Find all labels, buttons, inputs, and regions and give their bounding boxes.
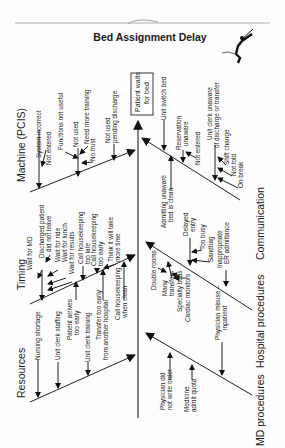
svg-text:pending discharge: pending discharge [111, 90, 119, 143]
svg-text:Not used: Not used [104, 117, 111, 143]
resources-causes: Nursing shortage Unit clerk staffing Pat… [34, 262, 128, 397]
svg-text:System incorrect: System incorrect [35, 110, 43, 158]
svg-text:ER admittance: ER admittance [223, 222, 230, 264]
svg-text:did not leave: did not leave [45, 215, 52, 252]
svg-text:Functions not useful: Functions not useful [57, 93, 64, 150]
svg-text:Double rooms: Double rooms [150, 250, 157, 290]
category-hospital: Hospital procedures [254, 275, 266, 368]
svg-text:of discharge or transfer: of discharge or transfer [213, 81, 221, 148]
svg-text:Unit clerk training: Unit clerk training [84, 312, 92, 362]
svg-text:Not told: Not told [230, 154, 237, 176]
svg-text:No trust: No trust [89, 138, 96, 161]
svg-text:Patient arrives: Patient arrives [66, 299, 73, 340]
svg-text:Think it will take: Think it will take [107, 216, 114, 262]
effect-label-line2: for bed [143, 82, 150, 104]
svg-text:Unit clerk unaware: Unit clerk unaware [206, 87, 213, 140]
svg-text:Medicine: Medicine [183, 386, 190, 412]
category-md: MD procedures [254, 374, 266, 446]
svg-text:Unit clerk staffing: Unit clerk staffing [54, 311, 62, 360]
diagram-page: Bed Assignment Delay Patient waits for b… [0, 0, 285, 448]
svg-text:Nursing shortage: Nursing shortage [34, 311, 42, 360]
svg-text:too early: too early [97, 241, 105, 266]
svg-text:Wait for results: Wait for results [68, 232, 75, 274]
svg-text:admit quota: admit quota [190, 378, 198, 412]
svg-text:Not entered: Not entered [45, 131, 52, 165]
svg-text:Sandbag: Sandbag [207, 236, 215, 262]
svg-text:Wait for lunch: Wait for lunch [61, 223, 68, 262]
bone-resources [30, 355, 135, 402]
category-resources: Resources [15, 348, 27, 398]
category-machine: Machine (PCIS) [15, 108, 27, 182]
svg-text:entry: entry [189, 217, 197, 232]
svg-text:unaware: unaware [182, 121, 189, 146]
svg-text:more time: more time [114, 233, 121, 262]
category-communication: Communication [254, 187, 266, 260]
communication-causes: Unit switch bed Reservation unaware Not … [160, 76, 244, 228]
bone-hospital [146, 242, 252, 310]
svg-text:Specialty beds: Specialty beds [176, 270, 184, 312]
diagram-title: Bed Assignment Delay [93, 31, 207, 43]
svg-text:Not entered: Not entered [194, 131, 201, 165]
svg-text:too early: too early [73, 310, 81, 335]
svg-text:bed is clean: bed is clean [167, 187, 174, 222]
svg-text:Need more training: Need more training [83, 89, 91, 144]
svg-text:inpatient: inpatient [221, 306, 229, 330]
svg-text:Cardiac monitors: Cardiac monitors [184, 274, 191, 322]
effect-label-line1: Patient waits [134, 72, 141, 112]
svg-text:Unit switch bed: Unit switch bed [160, 76, 167, 120]
svg-text:Too busy: Too busy [199, 224, 207, 250]
svg-text:Wait for MD: Wait for MD [26, 236, 33, 270]
svg-text:from another hospital: from another hospital [102, 300, 110, 360]
timing-causes: Wait for MD Discharged patient did not l… [26, 204, 121, 300]
svg-text:Wait for ride: Wait for ride [54, 227, 61, 262]
climber-figure-icon [222, 29, 253, 63]
svg-text:On break: On break [237, 161, 244, 188]
fishbone-diagram: Bed Assignment Delay Patient waits for b… [0, 0, 285, 448]
md-causes: Physician misuse – inpatient Physician d… [159, 285, 229, 412]
svg-text:Reservation: Reservation [175, 115, 182, 150]
svg-text:Not used: Not used [72, 121, 79, 147]
